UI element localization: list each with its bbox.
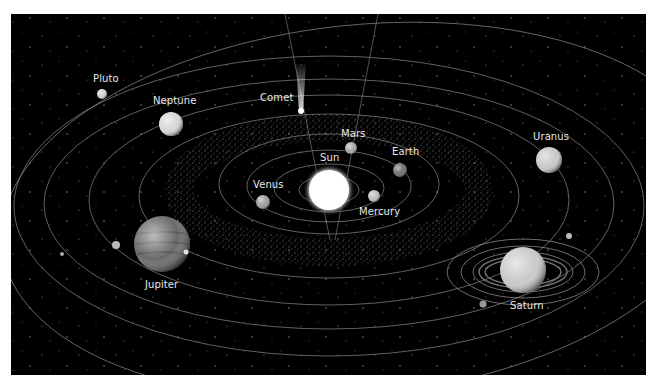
- scene-canvas: [11, 14, 646, 375]
- label-saturn: Saturn: [510, 300, 544, 311]
- label-mercury: Mercury: [359, 206, 400, 217]
- comet-nucleus: [298, 108, 304, 114]
- moon: [112, 241, 120, 249]
- label-sun: Sun: [320, 152, 339, 163]
- moon: [566, 233, 572, 239]
- label-venus: Venus: [253, 179, 284, 190]
- solar-system-diagram: Sun Mercury Venus Earth Mars Jupiter Sat…: [11, 14, 646, 375]
- moon: [60, 252, 64, 256]
- label-neptune: Neptune: [153, 95, 196, 106]
- label-uranus: Uranus: [533, 131, 569, 142]
- label-jupiter: Jupiter: [145, 279, 178, 290]
- label-earth: Earth: [392, 146, 419, 157]
- label-comet: Comet: [260, 92, 293, 103]
- sun: [309, 170, 349, 210]
- label-pluto: Pluto: [93, 73, 119, 84]
- moon: [184, 250, 189, 255]
- moon: [480, 301, 487, 308]
- label-mars: Mars: [341, 128, 365, 139]
